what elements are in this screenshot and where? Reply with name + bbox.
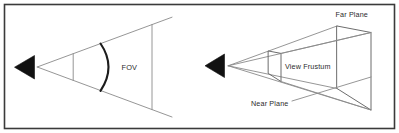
view-frustum-label: View Frustum bbox=[285, 62, 331, 71]
diagram-figure: FOV Far Plane View Frustum bbox=[0, 0, 399, 133]
near-plane-label: Near Plane bbox=[251, 99, 288, 108]
far-plane-label: Far Plane bbox=[336, 10, 369, 19]
diagram-border bbox=[5, 5, 395, 129]
fov-label: FOV bbox=[122, 63, 138, 72]
